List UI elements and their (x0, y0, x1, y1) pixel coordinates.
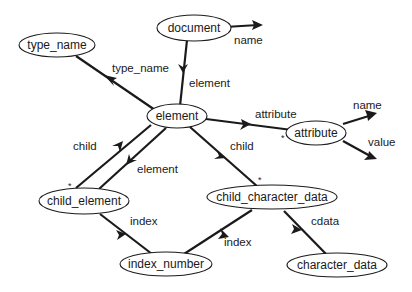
node-child-character-data: child_character_data (207, 185, 337, 209)
node-character-data: character_data (287, 253, 387, 277)
multiplicity-star: * (281, 133, 285, 143)
edge-document-element: element (178, 40, 231, 106)
edge-label-name: name (234, 34, 263, 46)
edge-attribute-name: name (343, 99, 382, 124)
edge-element-child-character-data: child * (190, 127, 262, 187)
edge-label-cdata: cdata (311, 215, 340, 227)
edge-label-element: element (137, 163, 179, 175)
node-document: document (157, 15, 231, 41)
edge-label-index: index (130, 215, 158, 227)
edge-label-index: index (224, 236, 252, 248)
node-type-name: type_name (19, 33, 95, 57)
edge-element-attribute: attribute * (206, 108, 297, 143)
edge-element-type-name: type_name (76, 56, 169, 110)
edge-label-name: name (353, 99, 382, 111)
edge-element-child-element: child * (68, 125, 151, 191)
edge-label-child: child (230, 140, 254, 152)
node-index-number: index_number (120, 252, 212, 276)
svg-text:document: document (168, 21, 221, 35)
node-child-element: child_element (39, 188, 129, 214)
edge-child-character-data-index: index (184, 210, 252, 254)
edge-document-name: name (225, 20, 263, 46)
svg-text:character_data: character_data (297, 258, 377, 272)
edge-label-attribute: attribute (255, 108, 297, 120)
arrowhead-icon (104, 75, 117, 86)
svg-text:index_number: index_number (128, 257, 204, 271)
arrowhead-icon (178, 64, 188, 73)
svg-text:element: element (156, 109, 199, 123)
schema-diagram: name element type_name attribute * name … (0, 0, 412, 292)
svg-text:child_character_data: child_character_data (216, 190, 328, 204)
node-attribute: attribute (286, 121, 346, 145)
edge-child-character-data-cdata: cdata (284, 211, 340, 254)
svg-text:attribute: attribute (294, 126, 338, 140)
edge-label-child: child (73, 140, 97, 152)
edge-label-type-name: type_name (112, 62, 169, 74)
edge-child-element-index: index (100, 214, 158, 254)
svg-text:type_name: type_name (27, 38, 87, 52)
multiplicity-star: * (258, 175, 262, 185)
svg-text:child_element: child_element (47, 194, 122, 208)
arrowhead-icon (364, 151, 377, 160)
edge-label-value: value (368, 136, 396, 148)
edge-label-element: element (189, 77, 231, 89)
node-element: element (147, 104, 207, 128)
edge-attribute-value: value (343, 136, 396, 160)
